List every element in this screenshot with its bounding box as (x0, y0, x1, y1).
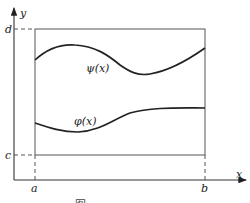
a-label: a (31, 182, 38, 195)
phi-label: φ(x) (74, 115, 97, 128)
figure-caption: 图 (75, 199, 86, 203)
y-axis-label: y (19, 7, 27, 20)
psi-label: ψ(x) (86, 62, 109, 75)
d-label: d (5, 23, 12, 36)
dashed-guides (14, 29, 205, 180)
b-label: b (201, 182, 208, 195)
c-label: c (5, 149, 11, 162)
bounding-rectangle (35, 29, 205, 155)
psi-curve (35, 45, 205, 75)
phi-curve (35, 108, 205, 132)
diagram-canvas: y x d c a b ψ(x) φ(x) 图 (0, 0, 250, 203)
x-axis-label: x (236, 168, 243, 181)
